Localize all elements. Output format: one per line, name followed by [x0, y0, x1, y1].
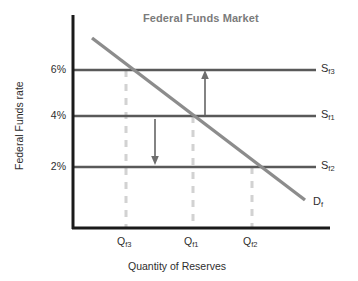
- x-tick-label-qf3-base: Q: [117, 235, 125, 247]
- series-label-sf1-sub: f1: [328, 113, 334, 122]
- series-label-sf2-sub: f2: [328, 164, 334, 173]
- series-label-sf3: Sf3: [321, 63, 335, 74]
- x-tick-label-qf2-sub: f2: [251, 240, 257, 249]
- series-label-df-base: D: [313, 195, 321, 207]
- x-tick-label-qf2: Qf2: [243, 236, 257, 247]
- x-tick-label-qf3: Qf3: [117, 236, 131, 247]
- series-label-sf2: Sf2: [321, 160, 335, 171]
- series-label-sf1: Sf1: [321, 109, 335, 120]
- dashed-guides: [126, 70, 252, 228]
- down-arrow-icon: [151, 119, 159, 165]
- y-tick-label-2pct: 2%: [36, 161, 66, 172]
- x-tick-label-qf1-base: Q: [184, 235, 192, 247]
- chart-title: Federal Funds Market: [143, 13, 259, 24]
- federal-funds-market-chart: Federal Funds Market Federal Funds rate …: [0, 0, 358, 281]
- y-tick-label-6pct: 6%: [36, 64, 66, 75]
- x-tick-label-qf1-sub: f1: [192, 240, 198, 249]
- x-axis-title: Quantity of Reserves: [128, 261, 226, 272]
- up-arrow-icon: [201, 70, 209, 115]
- series-label-df-sub: f: [321, 200, 323, 209]
- annotation-arrows: [151, 70, 209, 165]
- y-tick-label-4pct: 4%: [36, 110, 66, 121]
- chart-canvas: [0, 0, 358, 281]
- x-tick-label-qf3-sub: f3: [125, 240, 131, 249]
- x-tick-label-qf1: Qf1: [184, 236, 198, 247]
- series-label-df: Df: [313, 196, 323, 207]
- demand-curve-df: [92, 38, 305, 200]
- series-label-sf3-sub: f3: [328, 67, 334, 76]
- y-axis-title: Federal Funds rate: [14, 81, 25, 170]
- x-tick-label-qf2-base: Q: [243, 235, 251, 247]
